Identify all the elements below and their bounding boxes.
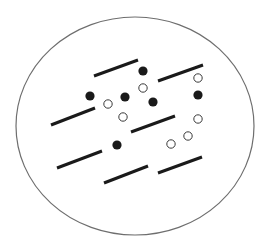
filled-particle-6 [112, 140, 121, 149]
filled-particle-5 [193, 90, 202, 99]
filled-particle-4 [148, 97, 157, 106]
particle-diagram [0, 0, 269, 245]
background [0, 0, 269, 245]
filled-particle-1 [138, 66, 147, 75]
open-particle-3 [104, 100, 112, 108]
open-particle-6 [184, 132, 192, 140]
filled-particle-3 [120, 92, 129, 101]
filled-particle-2 [85, 91, 94, 100]
diagram-canvas [0, 0, 269, 245]
open-particle-1 [139, 84, 147, 92]
open-particle-2 [194, 74, 202, 82]
open-particle-7 [167, 140, 175, 148]
open-particle-4 [119, 113, 127, 121]
open-particle-5 [194, 115, 202, 123]
